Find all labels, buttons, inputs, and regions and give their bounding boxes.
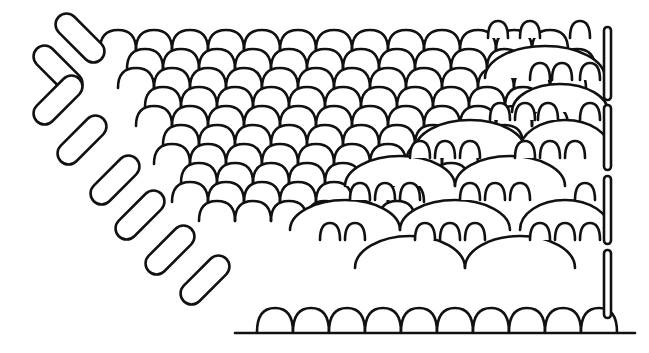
scale-arc — [244, 182, 280, 202]
scale-arc — [235, 201, 271, 221]
small-bump — [488, 21, 508, 38]
scale-arc — [289, 163, 325, 183]
scale-stitch-diagram — [0, 0, 649, 353]
scale-arc — [442, 68, 478, 88]
small-bump — [375, 183, 395, 200]
scale-arc — [181, 87, 217, 107]
scale-arc — [289, 87, 325, 107]
scale-arc — [154, 144, 190, 164]
small-bump — [540, 141, 560, 158]
scale-arc — [244, 106, 280, 126]
scale-arc — [118, 68, 154, 88]
small-bump — [570, 21, 590, 38]
scale-arc — [316, 30, 352, 50]
large-arc — [355, 236, 465, 268]
edge-loop — [111, 186, 169, 244]
scale-arc — [370, 68, 406, 88]
scale-arc — [307, 125, 343, 145]
scale-arc — [226, 68, 262, 88]
small-bump — [575, 183, 595, 200]
scale-arc — [154, 68, 190, 88]
scale-arc — [127, 49, 163, 69]
small-bump — [580, 223, 600, 240]
scale-arc — [325, 87, 361, 107]
edge-loop — [53, 111, 111, 169]
small-bump — [515, 103, 535, 120]
bar-segment — [604, 105, 611, 170]
scale-arc — [235, 49, 271, 69]
scale-arc — [172, 30, 208, 50]
bottom-arc — [545, 308, 581, 332]
small-bump — [555, 223, 575, 240]
scale-arc — [208, 106, 244, 126]
scale-arc — [352, 30, 388, 50]
scale-arc — [298, 144, 334, 164]
small-bump — [520, 21, 540, 38]
small-bump — [530, 63, 550, 80]
scale-arc — [172, 106, 208, 126]
small-bump — [530, 223, 550, 240]
scale-arc — [172, 182, 208, 202]
bottom-arc — [437, 308, 473, 332]
small-bump — [510, 183, 530, 200]
bottom-arc — [473, 308, 509, 332]
scale-arc — [190, 68, 226, 88]
scale-arc — [388, 106, 424, 126]
scale-arc — [181, 163, 217, 183]
scale-arc — [217, 163, 253, 183]
small-bump — [460, 141, 480, 158]
bottom-arc — [257, 308, 293, 332]
small-bump — [580, 103, 600, 120]
bottom-arc — [401, 308, 437, 332]
scale-arc — [208, 182, 244, 202]
scale-arc — [199, 125, 235, 145]
bottom-arc — [365, 308, 401, 332]
scale-arc — [280, 30, 316, 50]
scale-arc — [343, 125, 379, 145]
scale-arc — [262, 144, 298, 164]
scale-arc — [253, 87, 289, 107]
small-bump — [552, 63, 572, 80]
small-bump — [565, 141, 585, 158]
scale-arc — [217, 87, 253, 107]
small-bump — [538, 103, 558, 120]
small-bump — [320, 223, 340, 240]
scale-arc — [136, 30, 172, 50]
diagram-canvas — [0, 0, 649, 353]
scale-arc — [397, 87, 433, 107]
right-edge-bar — [604, 27, 611, 318]
large-arc — [345, 156, 455, 186]
bottom-arc — [329, 308, 365, 332]
large-arc — [465, 236, 575, 268]
small-bump — [580, 63, 600, 80]
scale-arc — [271, 49, 307, 69]
scale-arc — [199, 49, 235, 69]
scale-arc — [226, 144, 262, 164]
scale-arc — [451, 49, 487, 69]
scale-arc — [379, 125, 415, 145]
scale-arc — [280, 106, 316, 126]
small-bump — [410, 141, 430, 158]
bar-segment — [604, 27, 611, 100]
scale-arc — [244, 30, 280, 50]
small-bump — [415, 223, 435, 240]
bar-segment — [604, 176, 611, 244]
large-arc — [455, 156, 565, 186]
scale-arc — [253, 163, 289, 183]
scale-arc — [334, 68, 370, 88]
small-bump — [350, 183, 370, 200]
bottom-arc — [509, 308, 545, 332]
scale-arc — [433, 87, 469, 107]
scale-arc — [271, 125, 307, 145]
scale-arc — [316, 106, 352, 126]
small-bump — [345, 223, 365, 240]
scale-arc — [100, 30, 136, 50]
small-bump — [490, 103, 510, 120]
scale-arc — [334, 144, 370, 164]
scale-arc — [361, 87, 397, 107]
scale-arc — [235, 125, 271, 145]
bottom-arc — [293, 308, 329, 332]
small-bump — [400, 183, 420, 200]
scale-arc — [388, 30, 424, 50]
small-bump — [440, 223, 460, 240]
